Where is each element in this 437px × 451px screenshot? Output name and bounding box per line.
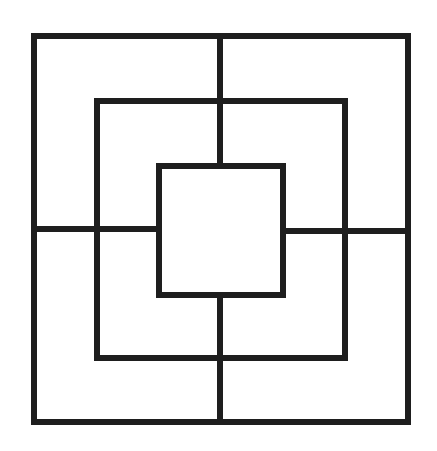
morris-board-diagram	[0, 0, 437, 451]
board-connectors	[34, 36, 408, 422]
inner-square	[159, 166, 283, 295]
